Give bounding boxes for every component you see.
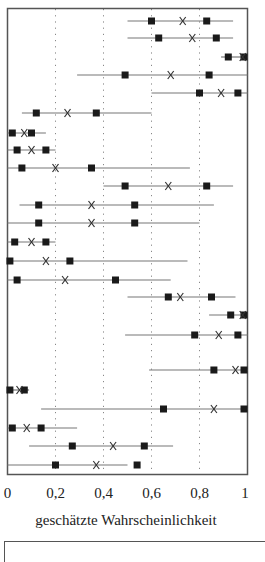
square-marker: [191, 332, 198, 339]
data-row: [22, 109, 152, 117]
square-marker: [206, 72, 213, 79]
data-row: [20, 201, 214, 209]
x-tick-label: 0: [4, 485, 12, 502]
square-marker: [69, 443, 76, 450]
square-marker: [38, 425, 45, 432]
data-row: [8, 238, 56, 246]
square-marker: [93, 110, 100, 117]
square-marker: [234, 332, 241, 339]
square-marker: [112, 277, 119, 284]
square-marker: [33, 110, 40, 117]
square-marker: [14, 147, 21, 154]
data-row: [128, 17, 234, 25]
x-axis-title: geschätzte Wahrscheinlichkeit: [0, 512, 252, 529]
gridlines: [56, 9, 200, 474]
square-marker: [241, 367, 248, 374]
square-marker: [6, 258, 13, 265]
square-marker: [203, 18, 210, 25]
square-marker: [131, 220, 138, 227]
square-marker: [165, 294, 172, 301]
square-marker: [160, 406, 167, 413]
data-row: [6, 386, 29, 394]
data-row: [8, 146, 56, 154]
data-row: [209, 311, 247, 319]
square-marker: [131, 202, 138, 209]
square-marker: [203, 183, 210, 190]
data-row: [8, 461, 141, 469]
square-marker: [6, 387, 13, 394]
data-row: [152, 89, 248, 97]
data-row: [8, 129, 46, 137]
x-tick-label: 0,4: [94, 485, 113, 502]
square-marker: [35, 202, 42, 209]
square-marker: [66, 258, 73, 265]
square-marker: [148, 18, 155, 25]
square-marker: [11, 239, 18, 246]
square-marker: [42, 239, 49, 246]
data-row: [77, 71, 247, 79]
square-marker: [196, 90, 203, 97]
square-marker: [234, 90, 241, 97]
square-marker: [210, 367, 217, 374]
square-marker: [52, 462, 59, 469]
square-marker: [141, 443, 148, 450]
square-marker: [227, 312, 234, 319]
square-marker: [122, 183, 129, 190]
data-row: [149, 366, 247, 374]
square-marker: [241, 406, 248, 413]
square-marker: [9, 130, 16, 137]
square-marker: [9, 425, 16, 432]
x-tick-label: 0,2: [46, 485, 65, 502]
next-figure-frame: [4, 541, 265, 562]
x-tick-label: 0,6: [142, 485, 161, 502]
data-row: [128, 34, 234, 42]
data-row: [125, 331, 247, 339]
square-marker: [134, 462, 141, 469]
square-marker: [42, 147, 49, 154]
square-marker: [28, 130, 35, 137]
square-marker: [88, 165, 95, 172]
data-rows: [6, 17, 247, 469]
x-tick-label: 1: [241, 485, 249, 502]
square-marker: [122, 72, 129, 79]
data-row: [8, 164, 190, 172]
probability-interval-chart: [0, 0, 252, 480]
data-row: [8, 276, 171, 284]
data-row: [8, 424, 78, 432]
square-marker: [14, 277, 21, 284]
square-marker: [208, 294, 215, 301]
square-marker: [35, 220, 42, 227]
square-marker: [213, 35, 220, 42]
data-row: [6, 257, 187, 265]
square-marker: [225, 54, 232, 61]
data-row: [221, 53, 247, 61]
x-tick-label: 0,8: [190, 485, 209, 502]
data-row: [128, 293, 236, 301]
square-marker: [18, 165, 25, 172]
data-row: [104, 182, 234, 190]
data-row: [41, 405, 247, 413]
square-marker: [155, 35, 162, 42]
